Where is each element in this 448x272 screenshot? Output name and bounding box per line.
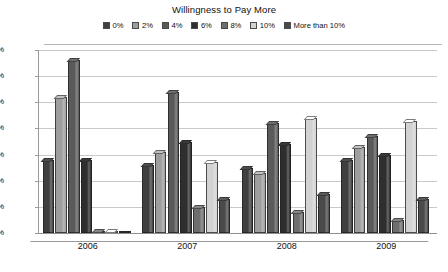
- bar-top-face: [378, 153, 391, 157]
- y-axis-tick-mark: [35, 233, 39, 234]
- bar-top-face: [240, 166, 253, 170]
- bar-top-face: [141, 163, 154, 167]
- bar-top-face: [317, 192, 330, 196]
- x-axis-label: 2006: [38, 241, 138, 251]
- legend-label: 8%: [230, 21, 241, 30]
- chart-title: Willingness to Pay More: [0, 4, 448, 15]
- bar-top-face: [403, 119, 416, 123]
- bar[interactable]: [341, 160, 353, 233]
- y-axis-tick-label: 0%: [0, 228, 4, 237]
- bar[interactable]: [280, 144, 292, 233]
- bar[interactable]: [206, 162, 218, 233]
- bar[interactable]: [242, 168, 254, 233]
- legend-item[interactable]: More than 10%: [284, 21, 345, 30]
- legend-label: 10%: [260, 21, 275, 30]
- x-axis-label: 2007: [138, 241, 238, 251]
- legend-swatch-icon: [284, 22, 291, 29]
- bar[interactable]: [119, 231, 131, 233]
- bar-top-face: [217, 197, 230, 201]
- bar-top-face: [291, 210, 304, 214]
- bar[interactable]: [155, 152, 167, 233]
- x-axis-label: 2008: [237, 241, 337, 251]
- legend-item[interactable]: 8%: [221, 21, 241, 30]
- legend-swatch-icon: [132, 22, 139, 29]
- legend-swatch-icon: [103, 22, 110, 29]
- bar[interactable]: [405, 121, 417, 233]
- bar-group: [242, 50, 332, 233]
- bar[interactable]: [81, 160, 93, 233]
- y-axis-tick-label: 35%: [0, 45, 4, 54]
- bar[interactable]: [219, 199, 231, 233]
- legend-swatch-icon: [162, 22, 169, 29]
- bars-layer: [38, 50, 436, 233]
- bar[interactable]: [180, 142, 192, 234]
- bar-top-face: [365, 134, 378, 138]
- bar-top-face: [278, 142, 291, 146]
- bar[interactable]: [55, 97, 67, 233]
- bar-top-face: [340, 158, 353, 162]
- bar[interactable]: [142, 165, 154, 233]
- legend-swatch-icon: [250, 22, 257, 29]
- bar-group: [341, 50, 431, 233]
- bar-top-face: [416, 197, 429, 201]
- bar[interactable]: [106, 231, 118, 233]
- bar[interactable]: [293, 212, 305, 233]
- legend-item[interactable]: 10%: [250, 21, 275, 30]
- gridline: [39, 233, 437, 234]
- bar[interactable]: [68, 60, 80, 233]
- y-axis-tick-label: 20%: [0, 123, 4, 132]
- bar-top-face: [166, 90, 179, 94]
- legend-label: 0%: [112, 21, 123, 30]
- y-axis-tick-label: 10%: [0, 176, 4, 185]
- chart-legend: 0%2%4%6%8%10%More than 10%: [0, 21, 448, 30]
- x-axis-label: 2009: [337, 241, 437, 251]
- bar-top-face: [179, 140, 192, 144]
- y-axis-tick-label: 5%: [0, 202, 4, 211]
- legend-label: 4%: [171, 21, 182, 30]
- legend-label: 2%: [142, 21, 153, 30]
- bar-top-face: [352, 145, 365, 149]
- bar-top-face: [192, 205, 205, 209]
- bar-group: [43, 50, 133, 233]
- bar[interactable]: [267, 123, 279, 233]
- y-axis-tick-label: 30%: [0, 71, 4, 80]
- bar[interactable]: [305, 118, 317, 233]
- legend-item[interactable]: 0%: [103, 21, 123, 30]
- bar-top-face: [266, 121, 279, 125]
- bar[interactable]: [354, 147, 366, 233]
- bar-top-face: [67, 58, 80, 62]
- legend-label: More than 10%: [294, 21, 346, 30]
- bar-top-face: [41, 158, 54, 162]
- legend-swatch-icon: [191, 22, 198, 29]
- bar[interactable]: [418, 199, 430, 233]
- chart-container: Willingness to Pay More 0%2%4%6%8%10%Mor…: [0, 0, 448, 272]
- bar-top-face: [79, 158, 92, 162]
- bar-top-face: [253, 171, 266, 175]
- bar[interactable]: [379, 155, 391, 233]
- legend-item[interactable]: 4%: [162, 21, 182, 30]
- bar-top-face: [304, 116, 317, 120]
- y-axis-tick-label: 25%: [0, 97, 4, 106]
- legend-item[interactable]: 6%: [191, 21, 211, 30]
- bar-top-face: [391, 218, 404, 222]
- bar-top-face: [92, 229, 105, 233]
- bar-top-face: [153, 150, 166, 154]
- bar[interactable]: [168, 92, 180, 233]
- bar-top-face: [105, 229, 118, 233]
- bar[interactable]: [94, 231, 106, 233]
- bar-top-face: [204, 160, 217, 164]
- bar-top-face: [54, 95, 67, 99]
- bar-group: [142, 50, 232, 233]
- bar[interactable]: [254, 173, 266, 233]
- bar[interactable]: [193, 207, 205, 233]
- legend-swatch-icon: [221, 22, 228, 29]
- bar[interactable]: [392, 220, 404, 233]
- bar[interactable]: [367, 136, 379, 233]
- legend-item[interactable]: 2%: [132, 21, 152, 30]
- legend-label: 6%: [201, 21, 212, 30]
- y-axis-tick-label: 15%: [0, 150, 4, 159]
- bar[interactable]: [43, 160, 55, 233]
- bar[interactable]: [318, 194, 330, 233]
